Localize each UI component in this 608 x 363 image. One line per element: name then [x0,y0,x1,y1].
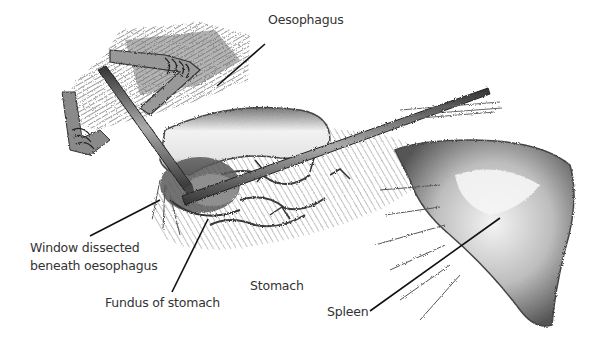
label-fundus: Fundus of stomach [105,295,220,311]
spleen-organ [375,140,574,326]
illustration-drawing [0,0,608,363]
surgical-illustration: Oesophagus Window dissected beneath oeso… [0,0,608,363]
label-oesophagus: Oesophagus [268,12,344,28]
label-window-line1: Window dissected [30,240,140,256]
label-window-line2: beneath oesophagus [30,258,157,274]
label-spleen: Spleen [327,304,368,320]
window-pointer [90,200,160,236]
label-stomach: Stomach [250,278,304,294]
